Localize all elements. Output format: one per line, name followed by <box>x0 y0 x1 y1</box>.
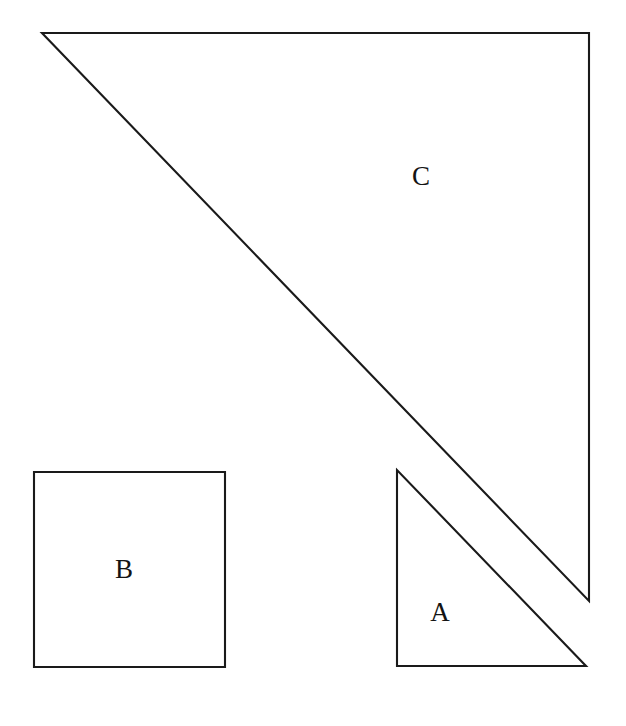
geometry-diagram: C B A <box>0 0 626 726</box>
shape-label-c: C <box>412 161 430 191</box>
triangle-c-outline[interactable] <box>42 33 589 601</box>
shape-label-a: A <box>430 597 450 627</box>
shape-label-b: B <box>115 554 133 584</box>
figure-canvas: C B A <box>0 0 626 726</box>
